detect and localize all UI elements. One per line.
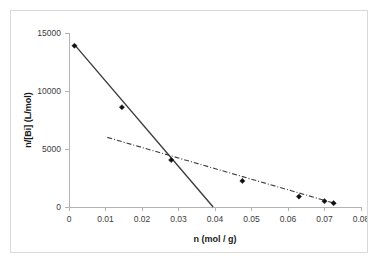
scatter-plot: 15000 10000 5000 0 0 0.01 0.02 0.03 0.04… (11, 11, 367, 252)
chart-frame: 15000 10000 5000 0 0 0.01 0.02 0.03 0.04… (10, 10, 368, 253)
x-tick-label-0: 0 (67, 214, 72, 224)
data-point-marker (169, 157, 174, 162)
x-tick-label-0.06: 0.06 (280, 214, 297, 224)
fit-lines-group (74, 45, 337, 207)
x-tick-label-0.05: 0.05 (243, 214, 260, 224)
x-tick-label-0.03: 0.03 (170, 214, 187, 224)
caption-strip (0, 258, 381, 272)
x-axis-title: n (mol / g) (194, 234, 237, 244)
x-tick-label-0.04: 0.04 (207, 214, 224, 224)
data-point-marker (119, 105, 124, 110)
y-tick-label-5000: 5000 (42, 144, 61, 154)
data-markers-group (72, 43, 336, 206)
x-tick-label-0.02: 0.02 (134, 214, 151, 224)
x-tick-label-0.07: 0.07 (316, 214, 333, 224)
y-tick-label-15000: 15000 (37, 28, 61, 38)
figure-container: 15000 10000 5000 0 0 0.01 0.02 0.03 0.04… (0, 0, 381, 272)
data-point-marker (240, 178, 245, 183)
x-tick-label-0.01: 0.01 (97, 214, 114, 224)
data-point-marker (331, 201, 336, 206)
steep-fit-line (74, 45, 213, 207)
y-tick-label-10000: 10000 (37, 86, 61, 96)
shallow-fit-line (107, 137, 337, 204)
y-tick-label-0: 0 (56, 202, 61, 212)
y-axis-title: n/[Bi] (L/mol) (23, 92, 33, 148)
x-tick-label-0.08: 0.08 (353, 214, 367, 224)
data-point-marker (296, 194, 301, 199)
